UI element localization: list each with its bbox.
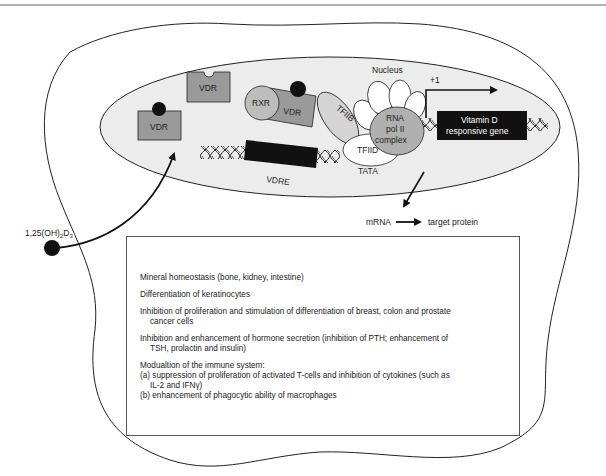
svg-text:VDR: VDR bbox=[199, 83, 217, 93]
tata-label: TATA bbox=[358, 166, 378, 176]
ligand-label: 1,25(OH)2D3 bbox=[25, 228, 73, 239]
svg-text:RXR: RXR bbox=[252, 98, 270, 108]
dna-helix-right bbox=[526, 118, 548, 131]
mrna-label: mRNA bbox=[366, 217, 391, 227]
svg-text:responsive gene: responsive gene bbox=[446, 126, 509, 136]
dna-helix-mid bbox=[316, 150, 340, 163]
ligand-dot-bound bbox=[290, 81, 306, 97]
svg-text:+1: +1 bbox=[430, 75, 440, 85]
rxr: RXR bbox=[245, 86, 279, 120]
svg-text:TFIID: TFIID bbox=[357, 145, 378, 155]
nucleus-label: Nucleus bbox=[372, 65, 403, 75]
effect-keratinocytes: Differentiation of keratinocytes bbox=[140, 290, 509, 300]
effect-mineral-homeostasis: Mineral homeostasis (bone, kidney, intes… bbox=[140, 273, 509, 283]
svg-text:Vitamin D: Vitamin D bbox=[461, 115, 498, 125]
effect-cancer-cells: Inhibition of proliferation and stimulat… bbox=[140, 307, 509, 327]
ligand-dot bbox=[152, 102, 166, 116]
svg-text:VDR: VDR bbox=[283, 106, 302, 118]
biological-effects-box: Mineral homeostasis (bone, kidney, intes… bbox=[126, 236, 520, 436]
svg-text:pol II: pol II bbox=[386, 124, 404, 134]
effect-hormone-secretion: Inhibition and enhancement of hormone se… bbox=[140, 334, 509, 354]
svg-text:VDR: VDR bbox=[150, 122, 168, 132]
vitamin-d-responsive-gene: Vitamin D responsive gene bbox=[437, 111, 527, 140]
dna-helix-left bbox=[200, 146, 248, 159]
rna-pol-ii-complex: RNA pol II complex bbox=[370, 107, 424, 155]
effect-immune-modulation: Modualtion of the immune system: (a) sup… bbox=[140, 361, 509, 401]
target-protein-label: target protein bbox=[428, 217, 478, 227]
svg-text:RNA: RNA bbox=[386, 113, 404, 123]
svg-text:complex: complex bbox=[375, 135, 407, 145]
